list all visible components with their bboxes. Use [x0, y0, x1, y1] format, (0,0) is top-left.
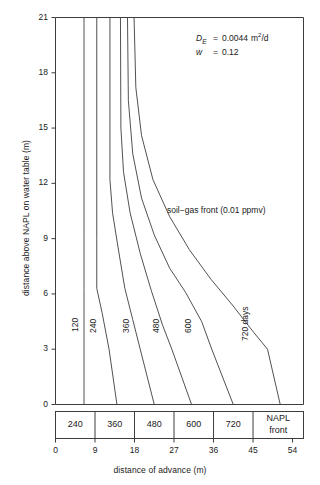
annotation-w-value: 0.12: [222, 47, 239, 57]
figure-root: distance above NAPL on water table (m) d…: [0, 0, 320, 485]
x-tick-label-0: 0: [44, 445, 68, 455]
x-tick-label-54: 54: [281, 445, 305, 455]
annotation-w-equals: =: [213, 47, 218, 57]
annotation-d-equals: =: [213, 33, 218, 43]
annotation-d-subscript: E: [202, 38, 206, 45]
y-tick-label-18: 18: [22, 67, 48, 77]
curve-label-120: 120: [70, 317, 80, 331]
table-cell-720: 720: [213, 419, 253, 429]
curve-240-days: [97, 18, 117, 405]
y-tick-label-3: 3: [22, 343, 48, 353]
annotation-d-value: 0.0044: [222, 33, 248, 43]
curve-label-480: 480: [151, 319, 161, 333]
y-tick-label-9: 9: [22, 233, 48, 243]
x-tick-label-9: 9: [83, 445, 107, 455]
curve-label-360: 360: [121, 319, 131, 333]
annotation-d-symbol: DE: [196, 33, 213, 47]
y-axis-title: distance above NAPL on water table (m): [21, 138, 31, 298]
annotation-diffusion-row: DE=0.0044m2/d: [196, 30, 269, 47]
table-cell-360: 360: [95, 419, 135, 429]
curve-label-240: 240: [88, 319, 98, 333]
curve-360-days: [110, 18, 154, 405]
x-axis-title: distance of advance (m): [0, 465, 320, 475]
table-cell-480: 480: [134, 419, 174, 429]
x-tick-label-18: 18: [123, 445, 147, 455]
x-tick-label-27: 27: [162, 445, 186, 455]
annotation-moisture-row: w=0.12: [196, 47, 269, 59]
y-tick-label-12: 12: [22, 177, 48, 187]
x-tick-label-36: 36: [202, 445, 226, 455]
y-tick-label-21: 21: [22, 12, 48, 22]
x-tick-label-45: 45: [241, 445, 265, 455]
table-cell-240: 240: [55, 419, 95, 429]
y-tick-label-0: 0: [22, 399, 48, 409]
curve-label-600: 600: [183, 319, 193, 333]
parameter-annotation: DE=0.0044m2/d w=0.12: [196, 30, 269, 59]
annotation-d-units: m2/d: [251, 33, 269, 43]
annotation-w-symbol: w: [196, 47, 213, 59]
y-tick-label-6: 6: [22, 288, 48, 298]
table-cell-napl-front-line1: NAPL: [256, 413, 300, 423]
table-cell-600: 600: [174, 419, 214, 429]
curve-label-720-days: 720 days: [240, 306, 250, 341]
y-tick-label-15: 15: [22, 122, 48, 132]
table-cell-napl-front-line2: front: [256, 425, 300, 435]
soil-gas-front-label: soil−gas front (0.01 ppmv): [167, 205, 266, 215]
